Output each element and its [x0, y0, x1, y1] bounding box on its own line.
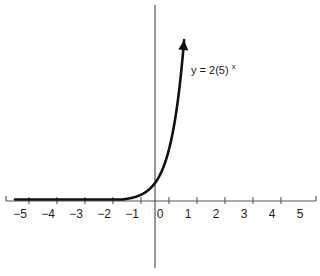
x-tick-label: 3 — [241, 207, 248, 221]
x-tick-label: −1 — [125, 207, 139, 221]
curve-arrowhead-icon — [178, 40, 188, 50]
x-axis-tick-labels: −5−4−3−2−1012345 — [13, 207, 304, 221]
x-tick-label: −5 — [13, 207, 27, 221]
x-tick-label: −2 — [97, 207, 111, 221]
x-tick-label: 4 — [269, 207, 276, 221]
x-tick-label: 0 — [157, 207, 164, 221]
equation-exponent: x — [232, 62, 236, 71]
exponential-curve — [15, 40, 184, 200]
equation-main: y = 2(5) — [191, 64, 229, 76]
exponential-graph: −5−4−3−2−1012345 y = 2(5) x — [0, 0, 320, 276]
axes — [6, 5, 316, 268]
x-tick-label: −4 — [41, 207, 55, 221]
x-tick-label: 2 — [213, 207, 220, 221]
equation-label: y = 2(5) x — [191, 62, 236, 76]
x-tick-label: 1 — [185, 207, 192, 221]
x-tick-label: −3 — [69, 207, 83, 221]
x-tick-label: 5 — [297, 207, 304, 221]
